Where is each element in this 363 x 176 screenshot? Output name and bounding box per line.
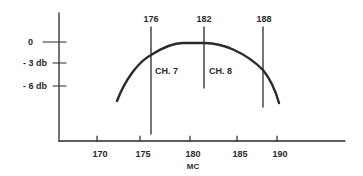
x-tick-label-170: 170 xyxy=(92,150,107,159)
x-tick-label-185: 185 xyxy=(232,150,247,159)
y-tick-label-0: 0 xyxy=(28,38,33,47)
response-curve xyxy=(117,43,279,103)
channel-8-label: CH. 8 xyxy=(209,67,232,76)
x-tick-label-175: 175 xyxy=(135,150,150,159)
marker-label-188: 188 xyxy=(256,15,271,24)
y-tick-label-3db: - 3 db xyxy=(23,59,47,68)
marker-label-182: 182 xyxy=(196,15,211,24)
channel-7-label: CH. 7 xyxy=(155,67,178,76)
x-tick-label-180: 180 xyxy=(185,150,200,159)
y-tick-label-6db: - 6 db xyxy=(23,82,47,91)
marker-label-176: 176 xyxy=(143,15,158,24)
chart-canvas xyxy=(0,0,363,176)
x-axis-label: MC xyxy=(187,163,199,171)
x-tick-label-190: 190 xyxy=(272,150,287,159)
